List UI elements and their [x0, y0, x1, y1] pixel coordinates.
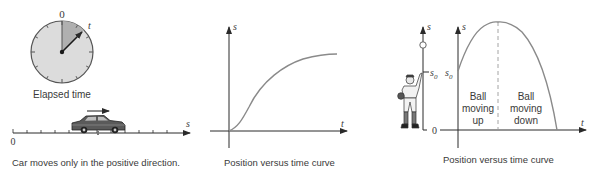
svg-text:moving: moving — [462, 103, 494, 114]
clock-zero-label: 0 — [59, 8, 65, 20]
middle-panel-caption: Position versus time curve — [224, 157, 335, 168]
clock-t-label: t — [88, 20, 91, 31]
region-ball-moving-down: Ball moving down — [510, 91, 542, 126]
middle-curve — [229, 54, 337, 131]
person-s-label: s — [427, 21, 431, 32]
ball-icon — [420, 42, 426, 48]
person-s0-label: s0 — [430, 67, 438, 81]
region-ball-moving-up: Ball moving up — [462, 91, 494, 126]
right-graph — [440, 22, 586, 148]
svg-text:Ball: Ball — [470, 91, 487, 102]
middle-t-label: t — [341, 118, 344, 129]
baseball-player-icon — [398, 73, 422, 128]
right-t-label: t — [581, 117, 584, 128]
number-line-origin-label: 0 — [11, 136, 16, 147]
left-panel-caption: Car moves only in the positive direction… — [12, 157, 180, 168]
right-panel-caption: Position versus time curve — [443, 154, 554, 165]
svg-text:Ball: Ball — [518, 91, 535, 102]
middle-s-label: s — [233, 21, 237, 32]
svg-text:down: down — [514, 115, 538, 126]
person-zero-label: 0 — [432, 125, 437, 136]
middle-graph — [210, 27, 347, 148]
svg-text:up: up — [472, 115, 484, 126]
clock-icon — [31, 21, 93, 83]
right-s0-label: s0 — [445, 67, 453, 81]
figure-canvas: 0 t Elapsed time 0 s C — [0, 0, 592, 179]
clock-caption: Elapsed time — [33, 89, 91, 100]
car-icon — [72, 116, 125, 136]
svg-text:moving: moving — [510, 103, 542, 114]
right-s-label: s — [462, 21, 466, 32]
number-line-s-label: s — [186, 118, 190, 129]
